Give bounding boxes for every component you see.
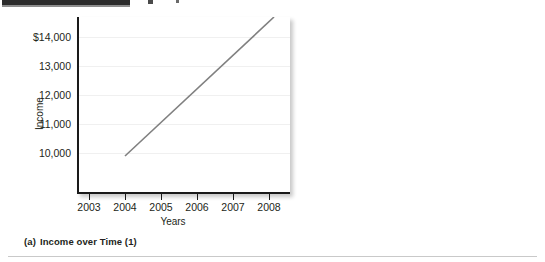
x-axis-line-a: [77, 192, 290, 194]
caption-a: (a)Income over Time (1): [24, 236, 137, 247]
chart-area-a: [77, 17, 290, 194]
panel-income-over-time-1: Income $14,000 13,000 12,000 11,000 10,0…: [0, 0, 300, 262]
x-tick-a-2008: [269, 194, 270, 200]
y-tick-label-a-4: 10,000: [9, 148, 71, 159]
x-tick-label-a-3: 2006: [177, 201, 217, 213]
x-tick-a-2005: [161, 194, 162, 200]
x-tick-label-a-2: 2005: [141, 201, 181, 213]
caption-a-text: Income over Time (1): [40, 236, 137, 247]
plot-a: [77, 17, 290, 194]
y-tick-label-a-2: 12,000: [9, 90, 71, 101]
panel-income-over-time-2: Income $18,000 16,000 14,000 12,000 10,0…: [296, 0, 545, 262]
x-tick-a-2003: [89, 194, 90, 200]
x-tick-a-2006: [197, 194, 198, 200]
figure-two-line-charts: Income $14,000 13,000 12,000 11,000 10,0…: [0, 0, 545, 262]
x-tick-label-a-1: 2004: [105, 201, 145, 213]
y-tick-label-a-3: 11,000: [9, 119, 71, 130]
y-axis-line-a: [77, 17, 79, 194]
x-tick-a-2007: [233, 194, 234, 200]
data-line-a: [77, 17, 290, 194]
x-tick-a-2004: [125, 194, 126, 200]
y-tick-label-a-0: $14,000: [9, 32, 71, 43]
x-axis-title-a: Years: [143, 216, 203, 227]
caption-a-tag: (a): [24, 236, 36, 247]
figure-bottom-rule: [8, 256, 537, 257]
x-tick-label-a-0: 2003: [69, 201, 109, 213]
y-tick-label-a-1: 13,000: [9, 61, 71, 72]
x-tick-label-a-5: 2008: [249, 201, 289, 213]
x-tick-label-a-4: 2007: [213, 201, 253, 213]
